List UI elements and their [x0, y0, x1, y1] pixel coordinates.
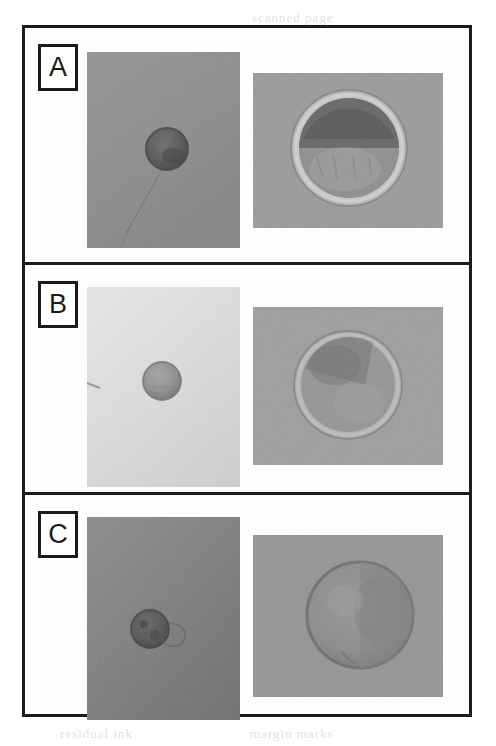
panel-c-label: C: [38, 511, 78, 558]
bleed-through-text: scanned page: [252, 10, 334, 26]
bleed-through-text: residual ink: [60, 726, 133, 742]
panel-b-left-field: [87, 287, 240, 487]
panel-b: B: [25, 262, 469, 492]
figure-frame: A: [22, 25, 472, 717]
panel-c: C: [25, 492, 469, 717]
panel-c-left-field: [87, 517, 240, 720]
panel-c-micrograph-right: [253, 535, 443, 697]
bleed-through-text: margin marks: [250, 726, 334, 742]
panel-a-right-field: [253, 73, 443, 228]
panel-c-micrograph-left: [87, 517, 240, 720]
panel-b-micrograph-right: [253, 307, 443, 465]
panel-a: A: [25, 28, 469, 262]
panel-b-micrograph-left: [87, 287, 240, 487]
panel-a-label: A: [38, 44, 78, 91]
panel-b-label: B: [38, 281, 78, 328]
panel-a-micrograph-left: [87, 52, 240, 248]
panel-a-micrograph-right: [253, 73, 443, 228]
panel-b-right-field: [253, 307, 443, 465]
panel-a-left-field: [87, 52, 240, 248]
panel-c-right-field: [253, 535, 443, 697]
